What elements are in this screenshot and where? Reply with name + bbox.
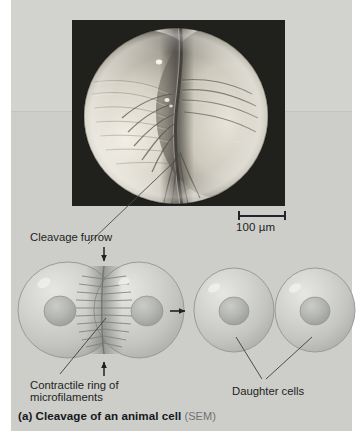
label-contractile-ring: Contractile ring ofmicrofilaments xyxy=(30,379,119,404)
scale-bar xyxy=(238,211,286,220)
sem-micrograph xyxy=(72,20,285,206)
label-daughter-cells: Daughter cells xyxy=(232,385,304,397)
scale-bar-rule xyxy=(238,215,286,217)
label-cleavage-furrow: Cleavage furrow xyxy=(30,231,112,243)
label-contractile-ring-line1: Contractile ring of xyxy=(30,379,119,391)
scale-bar-cap-right xyxy=(284,211,286,220)
figure-caption-technique: (SEM) xyxy=(185,410,216,422)
figure-cleavage-animal-cell: 100 µm xyxy=(0,0,363,444)
scale-bar-label: 100 µm xyxy=(236,221,275,233)
figure-caption: (a) Cleavage of an animal cell (SEM) xyxy=(18,409,216,422)
figure-caption-main: (a) Cleavage of an animal cell xyxy=(18,409,181,422)
label-contractile-ring-line2: microfilaments xyxy=(30,391,103,403)
